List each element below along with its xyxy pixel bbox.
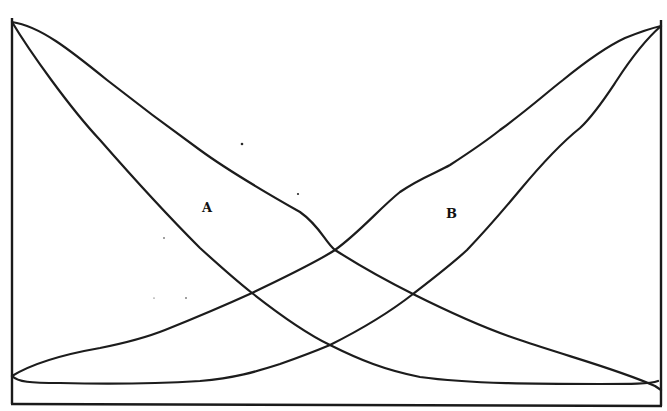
- region-label-a: A: [202, 201, 212, 214]
- print-speck: [297, 193, 299, 195]
- print-speck: [185, 297, 187, 299]
- print-speck: [153, 297, 154, 298]
- curve-a-inner: [12, 22, 658, 384]
- curve-a-outer: [12, 22, 661, 390]
- print-speck: [163, 237, 165, 239]
- region-label-b: B: [446, 207, 457, 220]
- print-speck: [241, 143, 244, 146]
- frame-bottom-axis: [11, 404, 662, 406]
- curve-b-outer: [12, 26, 661, 376]
- crossing-curves-diagram: A B: [0, 0, 667, 411]
